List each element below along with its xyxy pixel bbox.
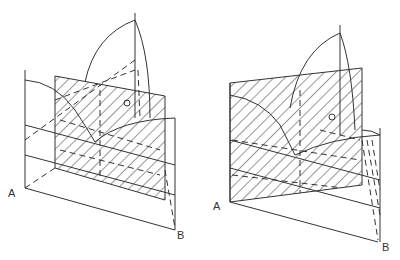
label-a: A [213,200,221,212]
arc-left [85,20,135,82]
label-a: A [8,187,16,199]
left-figure: A B [8,13,184,241]
label-b: B [382,241,389,253]
hidden-line-4 [165,170,175,228]
hidden-line-1 [25,168,55,188]
diagram-canvas: A B A B [0,0,400,260]
side-curve [362,130,380,135]
base-line-ab [230,202,378,242]
right-figure: A B [213,25,389,253]
hidden-line-3 [372,140,380,190]
hatched-plane [55,76,165,200]
hatched-plane [230,68,362,202]
label-b: B [177,229,184,241]
